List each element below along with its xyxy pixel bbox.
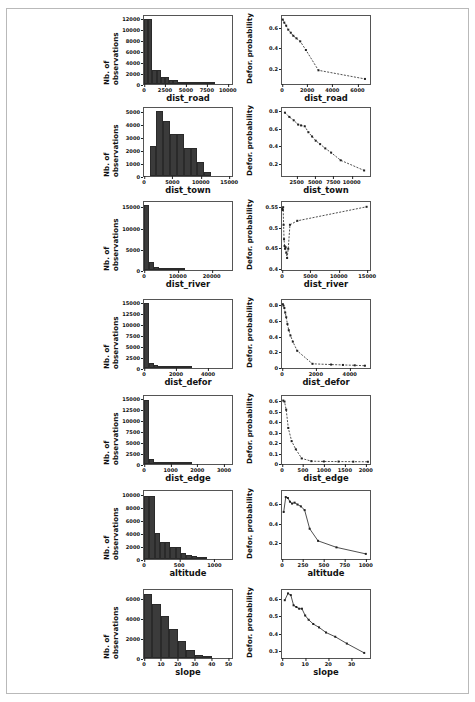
y-axis-label: Nb. of observations [105,13,117,85]
x-axis-label: slope [143,667,233,677]
y-tick-labels: 0200040006000 [117,587,143,659]
x-axis-label: dist_defor [281,377,371,387]
subplot-cell-histogram: Nb. of observations050001000015000010000… [105,199,237,291]
y-axis-label: Nb. of observations [105,199,117,271]
probability-line [282,590,370,658]
histogram-bar [197,162,204,176]
subplot-cell-histogram: Nb. of observations020004000600080001000… [105,13,237,105]
y-axis-label: Nb. of observations [105,297,117,369]
y-tick-labels: 050001000015000 [117,199,143,271]
histogram-bars [144,491,232,559]
data-point-marker [285,409,287,411]
data-point-marker [292,35,294,37]
subplot-row: Nb. of observations025005000750010000125… [7,297,468,389]
y-tick: 0.4 [269,143,278,149]
data-point-marker [304,615,306,617]
histogram-bar [204,172,211,176]
y-tick-labels: 0250050007500100001250015000 [117,393,143,465]
data-point-marker [287,592,289,594]
probability-line [282,491,370,559]
histogram-bar [150,146,157,176]
data-point-marker [287,497,289,499]
data-point-marker [287,427,289,429]
data-point-marker [311,135,313,137]
data-point-marker [365,553,367,555]
data-point-marker [289,335,291,337]
data-point-marker [285,316,287,318]
y-tick: 0.45 [265,245,278,251]
y-tick-labels: 010002000300040005000 [117,105,143,177]
data-point-marker [294,502,296,504]
y-tick: 3000 [126,135,140,141]
y-tick-labels: 00.10.20.30.40.50.6 [255,393,281,465]
data-point-marker [315,140,317,142]
data-point-marker [285,25,287,27]
x-axis-label: dist_river [281,279,371,289]
histogram-bar [184,148,191,176]
y-tick: 0 [136,82,140,88]
histogram-bar [187,462,192,464]
y-tick: 0.6 [269,596,278,602]
histogram-dist_town: Nb. of observations010002000300040005000… [105,105,237,197]
axes-frame [143,589,233,659]
y-tick: 0.8 [269,302,278,308]
histogram-bar [178,641,186,658]
probability-curve-altitude: Defor. probability0.20.40.60250500750100… [243,488,375,580]
y-tick: 4000 [126,531,140,537]
y-tick: 4000 [126,60,140,66]
axes-frame [143,201,233,271]
data-point-marker [291,503,293,505]
histogram-bars [144,590,232,658]
y-tick: 0.4 [269,419,278,425]
y-tick: 6000 [126,49,140,55]
x-axis-label: altitude [281,568,371,578]
y-tick: 10000 [122,418,140,424]
data-point-marker [283,511,285,513]
data-point-marker [317,540,319,542]
y-axis-label: Nb. of observations [105,587,117,659]
subplot-cell-probability: Defor. probability00.20.40.60.8020004000… [243,297,375,389]
data-point-marker [301,608,303,610]
data-point-marker [312,623,314,625]
histogram-bar [144,594,152,658]
y-tick: 5000 [126,440,140,446]
data-point-marker [283,305,285,307]
y-tick: 2500 [126,451,140,457]
y-tick: 4000 [126,616,140,622]
y-tick: 8000 [126,505,140,511]
data-point-marker [324,147,326,149]
data-point-marker [297,504,299,506]
data-point-marker [304,125,306,127]
histogram-bars [144,16,232,84]
data-point-marker [284,401,286,403]
histogram-bars [144,202,232,270]
y-axis-label: Defor. probability [243,199,255,271]
subplot-cell-histogram: Nb. of observations020004000600080001000… [105,488,237,580]
subplot-cell-probability: Defor. probability0.20.40.60250500750100… [243,488,375,580]
y-tick: 0 [136,656,140,662]
data-point-marker [307,131,309,133]
y-tick-labels: 0.40.450.50.55 [255,199,281,271]
y-tick: 0 [136,174,140,180]
subplot-row: Nb. of observations025005000750010000125… [7,393,468,485]
y-tick: 0.6 [269,126,278,132]
y-tick-labels: 0.20.40.6 [255,488,281,560]
subplot-row: Nb. of observations020004000600080001000… [7,488,468,580]
data-point-marker [283,238,285,240]
data-point-marker [282,209,284,211]
y-tick: 1000 [126,161,140,167]
data-point-marker [288,116,290,118]
histogram-bar [163,121,170,176]
data-point-marker [342,364,344,366]
data-point-marker [367,461,369,463]
histogram-bar [195,655,203,658]
data-point-marker [338,461,340,463]
figure-border: Nb. of observations020004000600080001000… [6,8,469,694]
y-axis-label: Nb. of observations [105,488,117,560]
subplot-cell-probability: Defor. probability0.30.40.50.60102030slo… [243,587,375,679]
y-tick: 0.6 [269,398,278,404]
y-axis-label: Nb. of observations [105,393,117,465]
data-point-marker [304,509,306,511]
y-tick: 0.2 [269,540,278,546]
y-tick: 0.1 [269,451,278,457]
